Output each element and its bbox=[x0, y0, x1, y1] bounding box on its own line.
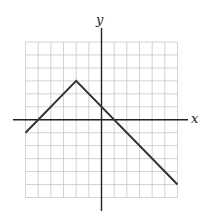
y-axis-label: y bbox=[95, 12, 104, 27]
x-axis-label: x bbox=[191, 111, 199, 126]
coordinate-graph: x y bbox=[0, 0, 209, 222]
